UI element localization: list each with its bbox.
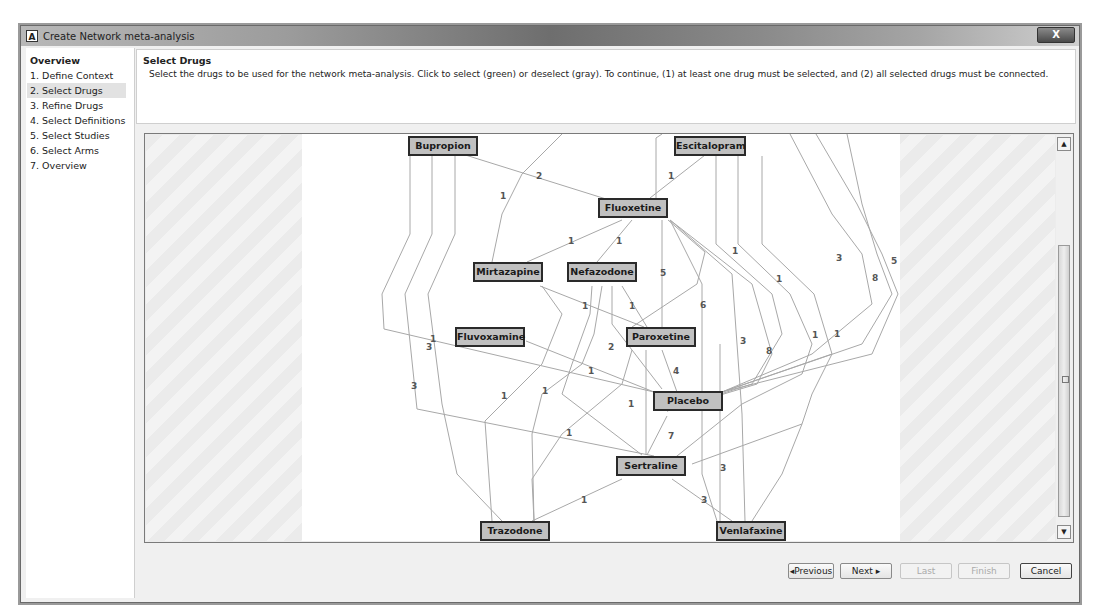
edge-label: 1 [629, 301, 635, 311]
scrollbar-thumb[interactable] [1058, 245, 1070, 517]
drug-node-fluvoxamine[interactable]: Fluvoxamine [455, 327, 525, 347]
step-select-definitions: 4. Select Definitions [27, 113, 134, 128]
grip-icon [1062, 376, 1069, 383]
next-button[interactable]: Next ▸ [840, 563, 892, 579]
edge-label: 1 [588, 366, 594, 376]
last-button[interactable]: Last [900, 563, 952, 579]
finish-button[interactable]: Finish [958, 563, 1010, 579]
edge-label: 7 [668, 431, 674, 441]
drug-node-placebo[interactable]: Placebo [653, 391, 723, 411]
step-refine-drugs: 3. Refine Drugs [27, 98, 134, 113]
step-header-panel: Select Drugs Select the drugs to be used… [136, 49, 1076, 124]
cancel-button[interactable]: Cancel [1020, 563, 1072, 579]
app-icon: A [26, 30, 38, 42]
scroll-down-button[interactable]: ▼ [1057, 525, 1071, 539]
step-overview: 7. Overview [27, 158, 134, 173]
drug-node-escitalopram[interactable]: Escitalopram [674, 136, 746, 156]
edge-label: 1 [776, 274, 782, 284]
edge-label: 5 [660, 268, 666, 278]
step-define-context: 1. Define Context [27, 68, 134, 83]
edge-label: 1 [568, 236, 574, 246]
edge-label: 1 [834, 329, 840, 339]
edge-label: 4 [673, 366, 679, 376]
edge-label: 1 [581, 495, 587, 505]
vertical-scrollbar[interactable]: ▲ ▼ [1056, 135, 1072, 541]
drug-node-sertraline[interactable]: Sertraline [616, 456, 686, 476]
network-graph-panel: ▲ ▼ [144, 133, 1074, 543]
drug-node-paroxetine[interactable]: Paroxetine [626, 327, 696, 347]
edge-label: 1 [812, 330, 818, 340]
wizard-steps-sidebar: Overview 1. Define Context 2. Select Dru… [26, 48, 135, 598]
edge-label: 3 [836, 253, 842, 263]
step-description: Select the drugs to be used for the netw… [149, 69, 1075, 79]
edge-label: 1 [500, 191, 506, 201]
page-title: Select Drugs [143, 55, 1075, 66]
edge-label: 1 [501, 391, 507, 401]
network-edges [302, 134, 900, 541]
edge-label: 1 [668, 171, 674, 181]
edge-label: 5 [891, 256, 897, 266]
previous-button[interactable]: ◂Previous [788, 563, 834, 579]
edge-label: 1 [566, 428, 572, 438]
window-title: Create Network meta-analysis [43, 31, 194, 42]
edge-label: 8 [766, 346, 772, 356]
network-graph-canvas [302, 134, 900, 541]
edge-label: 8 [872, 273, 878, 283]
edge-label: 3 [701, 495, 707, 505]
edge-label: 2 [608, 342, 614, 352]
step-overview-header: Overview [27, 53, 134, 68]
edge-label: 1 [616, 236, 622, 246]
edge-label: 1 [542, 386, 548, 396]
scroll-up-button[interactable]: ▲ [1057, 137, 1071, 151]
step-select-studies: 5. Select Studies [27, 128, 134, 143]
edge-label: 1 [732, 246, 738, 256]
drug-node-nefazodone[interactable]: Nefazodone [567, 262, 637, 282]
drug-node-mirtazapine[interactable]: Mirtazapine [473, 262, 543, 282]
close-button[interactable]: X [1037, 27, 1075, 43]
drug-node-trazodone[interactable]: Trazodone [480, 521, 550, 541]
step-select-arms: 6. Select Arms [27, 143, 134, 158]
edge-label: 3 [720, 463, 726, 473]
drug-node-fluoxetine[interactable]: Fluoxetine [598, 198, 668, 218]
edge-label: 1 [582, 301, 588, 311]
edge-label: 2 [536, 171, 542, 181]
edge-label: 6 [700, 300, 706, 310]
title-bar[interactable]: A Create Network meta-analysis X [21, 26, 1079, 46]
drug-node-bupropion[interactable]: Bupropion [408, 136, 478, 156]
step-select-drugs: 2. Select Drugs [27, 83, 126, 98]
drug-node-venlafaxine[interactable]: Venlafaxine [716, 521, 786, 541]
edge-label: 3 [411, 381, 417, 391]
edge-label: 3 [426, 342, 432, 352]
edge-label: 1 [628, 399, 634, 409]
edge-label: 3 [740, 336, 746, 346]
